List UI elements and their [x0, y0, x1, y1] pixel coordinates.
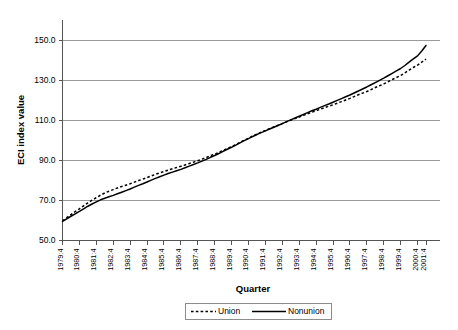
x-tick-label: 1996:4 — [343, 249, 352, 271]
legend-label-union: Union — [218, 306, 240, 316]
x-axis-title: Quarter — [236, 283, 271, 294]
x-tick-label: 1989:4 — [225, 249, 234, 271]
x-tick-label: 1986:4 — [174, 249, 183, 271]
x-tick-label: 1998:4 — [377, 249, 386, 271]
x-tick-label: 1987:4 — [191, 249, 200, 271]
x-tick-label: 1981:4 — [89, 249, 98, 271]
y-tick-label: 150.0 — [34, 35, 56, 45]
x-tick-label: 1995:4 — [326, 249, 335, 271]
chart-legend[interactable]: Union Nonunion — [186, 304, 332, 320]
x-tick-label: 1979:4 — [56, 249, 65, 271]
y-tick-label: 130.0 — [34, 75, 56, 85]
legend-label-nonunion: Nonunion — [288, 306, 325, 316]
x-tick-label: 1993:4 — [292, 249, 301, 271]
x-tick-label: 2001:4 — [419, 249, 428, 271]
x-tick-label: 1983:4 — [123, 249, 132, 271]
x-tick-label: 1985:4 — [157, 249, 166, 271]
x-tick-label: 1982:4 — [106, 249, 115, 271]
x-tick-label: 1997:4 — [360, 249, 369, 271]
x-tick-label: 1990:4 — [241, 249, 250, 271]
x-axis-ticks: 1979:41980:41981:41982:41983:41984:41985… — [56, 241, 429, 271]
x-tick-label: 1980:4 — [72, 249, 81, 271]
y-tick-label: 110.0 — [35, 115, 56, 125]
x-tick-label: 1992:4 — [275, 249, 284, 271]
data-series — [63, 45, 427, 221]
series-line-nonunion — [63, 45, 427, 221]
y-axis-title: ECI index value — [15, 95, 26, 165]
x-tick-label: 1994:4 — [309, 249, 318, 271]
y-tick-label: 50.0 — [39, 235, 56, 245]
x-tick-label: 1984:4 — [140, 249, 149, 271]
gridlines — [63, 40, 441, 200]
x-tick-label: 1991:4 — [258, 249, 267, 271]
y-axis-ticks: 150.0130.0110.090.070.050.0 — [34, 35, 62, 245]
y-tick-label: 90.0 — [39, 155, 56, 165]
eci-index-line-chart: 150.0130.0110.090.070.050.0 1979:41980:4… — [0, 0, 458, 330]
x-tick-label: 1988:4 — [208, 249, 217, 271]
y-tick-label: 70.0 — [39, 195, 56, 205]
x-tick-label: 1999:4 — [394, 249, 403, 271]
chart-canvas: 150.0130.0110.090.070.050.0 1979:41980:4… — [0, 0, 458, 330]
